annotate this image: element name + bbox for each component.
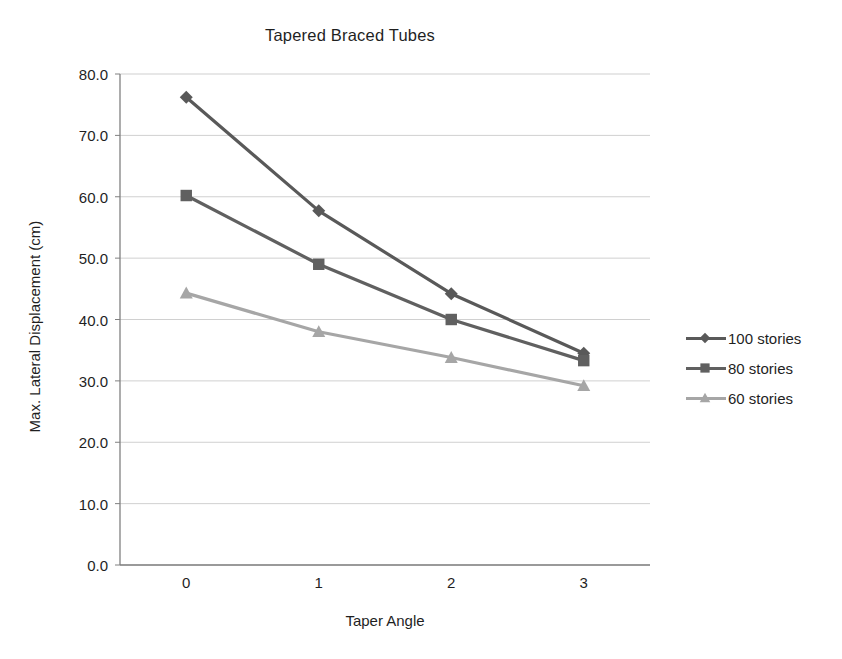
series-line-2 xyxy=(186,293,584,386)
data-point-square xyxy=(181,190,192,201)
data-point-square xyxy=(313,259,324,270)
legend-item[interactable]: 100 stories xyxy=(686,323,836,353)
legend-label: 60 stories xyxy=(726,390,793,407)
data-point-triangle xyxy=(700,393,711,403)
data-point-triangle xyxy=(180,287,193,299)
legend-marker-square xyxy=(698,361,712,375)
chart-figure: Tapered Braced Tubes Max. Lateral Displa… xyxy=(0,0,842,659)
data-point-square xyxy=(700,363,709,372)
legend-label: 100 stories xyxy=(726,330,801,347)
legend-marker-triangle xyxy=(698,391,712,405)
data-point-diamond xyxy=(700,333,711,344)
chart-legend: 100 stories80 stories60 stories xyxy=(686,323,836,413)
legend-swatch xyxy=(686,330,726,346)
legend-swatch xyxy=(686,360,726,376)
legend-label: 80 stories xyxy=(726,360,793,377)
legend-marker-diamond xyxy=(698,331,712,345)
data-point-square xyxy=(578,355,589,366)
legend-item[interactable]: 80 stories xyxy=(686,353,836,383)
series-line-1 xyxy=(186,196,584,361)
legend-item[interactable]: 60 stories xyxy=(686,383,836,413)
data-point-square xyxy=(446,314,457,325)
legend-swatch xyxy=(686,390,726,406)
